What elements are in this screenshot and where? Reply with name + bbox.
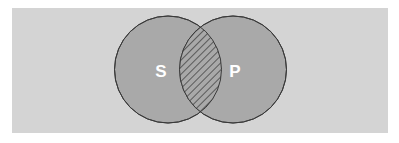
set-p-label: P (229, 62, 240, 81)
set-s-label: S (155, 62, 166, 81)
venn-diagram: S P (0, 0, 399, 143)
